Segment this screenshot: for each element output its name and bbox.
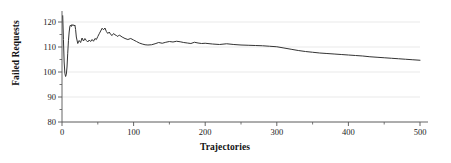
y-axis: 8090100110120 xyxy=(43,11,62,127)
y-tick-label: 100 xyxy=(43,67,56,77)
y-tick-label: 120 xyxy=(43,17,56,27)
y-tick-label: 110 xyxy=(44,42,56,52)
chart-container: 8090100110120 0100200300400500 Failed Re… xyxy=(0,0,451,163)
x-tick-label: 200 xyxy=(199,127,212,137)
y-tick-label: 80 xyxy=(48,117,57,127)
x-tick-label: 0 xyxy=(60,127,64,137)
x-axis-title: Trajectories xyxy=(150,142,300,152)
gridlines xyxy=(62,22,420,122)
data-line xyxy=(63,16,420,77)
x-tick-label: 400 xyxy=(342,127,355,137)
x-axis: 0100200300400500 xyxy=(60,122,428,137)
y-tick-label: 90 xyxy=(48,92,57,102)
line-chart: 8090100110120 0100200300400500 xyxy=(0,0,451,163)
x-tick-label: 100 xyxy=(127,127,140,137)
x-tick-label: 300 xyxy=(270,127,283,137)
y-axis-title: Failed Requests xyxy=(11,5,21,101)
data-series-group xyxy=(63,16,420,77)
x-tick-label: 500 xyxy=(414,127,427,137)
